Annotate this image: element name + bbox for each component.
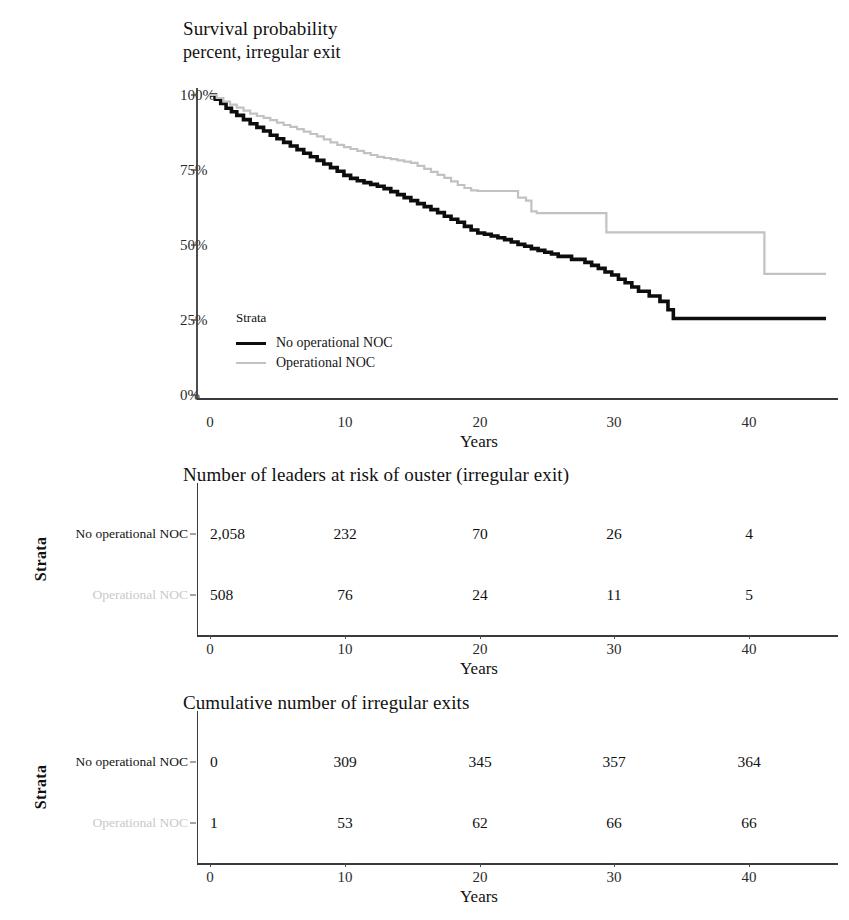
cumulative-row-label-operational-noc: Operational NOC [0, 815, 188, 831]
cumulative-cell-r0-c3: 357 [602, 753, 625, 771]
risk-cell-r1-c3: 11 [607, 586, 622, 604]
risk-row-tick-1 [190, 595, 196, 596]
risk-x-tick-mark-40 [749, 635, 750, 639]
risk-x-tick-40: 40 [742, 641, 757, 658]
cumulative-table-panel: Cumulative number of irregular exits Str… [0, 683, 849, 903]
cumulative-cell-r0-c1: 309 [333, 753, 356, 771]
survival-curve-layer [210, 95, 826, 319]
risk-panel-title: Number of leaders at risk of ouster (irr… [183, 463, 569, 486]
risk-cell-r1-c4: 5 [745, 586, 753, 604]
legend-item-no-operational-noc[interactable]: No operational NOC [236, 333, 393, 353]
risk-row-tick-0 [190, 534, 196, 535]
risk-x-axis-title: Years [460, 659, 498, 679]
cumulative-x-tick-40: 40 [742, 869, 757, 886]
cumulative-x-tick-mark-0 [210, 863, 211, 867]
cumulative-x-tick-10: 10 [338, 869, 353, 886]
risk-cell-r1-c0: 508 [210, 586, 233, 604]
legend-label-no-operational-noc: No operational NOC [276, 335, 393, 351]
risk-cell-r0-c4: 4 [745, 525, 753, 543]
risk-x-tick-mark-0 [210, 635, 211, 639]
cumulative-row-label-no-operational-noc: No operational NOC [0, 754, 188, 770]
cumulative-row-tick-1 [190, 823, 196, 824]
cumulative-cell-r1-c4: 66 [741, 814, 757, 832]
cumulative-panel-x-axis [197, 863, 838, 865]
legend-line-key-gray [236, 362, 266, 364]
cumulative-cell-r0-c2: 345 [468, 753, 491, 771]
cumulative-cell-r0-c0: 0 [210, 753, 218, 771]
cumulative-x-tick-20: 20 [473, 869, 488, 886]
cumulative-panel-vertical-spine [197, 711, 198, 863]
cumulative-cell-r1-c0: 1 [210, 814, 218, 832]
risk-x-tick-30: 30 [607, 641, 622, 658]
cumulative-x-tick-30: 30 [607, 869, 622, 886]
cumulative-row-tick-0 [190, 762, 196, 763]
risk-cell-r0-c1: 232 [333, 525, 356, 543]
survival-curve-operational-noc [210, 95, 826, 274]
risk-row-label-operational-noc: Operational NOC [0, 587, 188, 603]
risk-x-tick-10: 10 [338, 641, 353, 658]
risk-x-tick-mark-20 [480, 635, 481, 639]
risk-row-label-no-operational-noc: No operational NOC [0, 526, 188, 542]
cumulative-x-tick-mark-40 [749, 863, 750, 867]
risk-cell-r0-c0: 2,058 [210, 525, 245, 543]
legend-label-operational-noc: Operational NOC [276, 355, 375, 371]
legend-line-key-black [236, 342, 266, 345]
survival-probability-panel: Survival probability percent, irregular … [0, 0, 849, 460]
legend-item-operational-noc[interactable]: Operational NOC [236, 353, 393, 373]
cumulative-cell-r1-c2: 62 [472, 814, 488, 832]
cumulative-cell-r1-c3: 66 [606, 814, 622, 832]
legend-title: Strata [236, 310, 393, 326]
risk-x-tick-mark-30 [614, 635, 615, 639]
risk-table-panel: Number of leaders at risk of ouster (irr… [0, 455, 849, 675]
cumulative-x-tick-0: 0 [206, 869, 214, 886]
risk-panel-vertical-spine [197, 483, 198, 635]
risk-panel-x-axis [197, 635, 838, 637]
strata-legend: Strata No operational NOC Operational NO… [236, 310, 393, 373]
risk-x-tick-20: 20 [473, 641, 488, 658]
survival-curves-svg [0, 0, 849, 460]
risk-cell-r1-c2: 24 [472, 586, 488, 604]
cumulative-panel-title: Cumulative number of irregular exits [183, 691, 469, 714]
cumulative-cell-r1-c1: 53 [337, 814, 353, 832]
figure-page: Survival probability percent, irregular … [0, 0, 849, 920]
risk-x-tick-0: 0 [206, 641, 214, 658]
risk-x-tick-mark-10 [345, 635, 346, 639]
risk-cell-r1-c1: 76 [337, 586, 353, 604]
cumulative-x-axis-title: Years [460, 887, 498, 907]
cumulative-x-tick-mark-10 [345, 863, 346, 867]
risk-cell-r0-c2: 70 [472, 525, 488, 543]
cumulative-cell-r0-c4: 364 [737, 753, 760, 771]
risk-cell-r0-c3: 26 [606, 525, 622, 543]
cumulative-x-tick-mark-30 [614, 863, 615, 867]
cumulative-x-tick-mark-20 [480, 863, 481, 867]
